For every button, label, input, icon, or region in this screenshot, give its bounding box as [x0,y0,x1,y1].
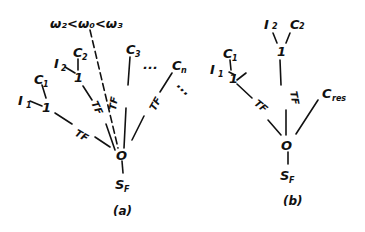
tf-label-c3: TF [107,96,120,112]
label-i1-sub: 1 [26,101,32,110]
root-node-b: O [281,138,292,153]
label-c2-b-sub: 2 [299,22,305,31]
edge-c3-top [128,57,130,85]
edge-a1-tf-top [55,113,72,124]
edge-a1-tf-bottom [95,137,110,147]
label-i2-sub: 2 [61,64,67,73]
edge-cn-top [160,73,172,92]
label-cn-sub: n [181,66,187,75]
root-node-a: O [116,148,127,163]
label-c1-b-sub: 1 [232,54,238,63]
label-i2-b: I [264,17,269,32]
edge-c3-bottom [124,108,126,148]
edge-b1-tf-top [237,84,252,98]
label-c2-sub: 2 [82,53,88,62]
label-sf-a-sub: F [124,185,130,194]
ellipsis-top: ... [143,57,158,72]
edge-omega-dashed [90,30,118,148]
tf-label-b2: TF [288,90,301,106]
label-i2: I [54,56,59,71]
edge-i2-node1-b [273,33,277,43]
label-sf-a: S [115,177,124,192]
label-i1-b-sub: 1 [218,70,224,79]
tf-label-b1: TF [252,97,270,114]
edge-c1-node1-b [230,60,231,70]
label-i2-b-sub: 2 [272,22,278,31]
node-b-top-1: 1 [277,44,286,59]
edge-i1-node1 [30,101,42,106]
tf-label-a1: TF [73,127,90,143]
node-a-left-1: 1 [42,100,51,115]
node-a-mid-1: 1 [74,70,83,85]
diagram-canvas: TF TF TF TF I 1 1 C 1 I 2 1 C 2 ω₂<ω₀<ω₃… [0,0,365,232]
edge-i1-node1-b [237,73,246,80]
ellipsis-right: ... [174,78,195,99]
label-sf-b: S [280,168,289,183]
node-b-left-1: 1 [229,71,238,86]
edge-b1-tf-bottom [268,120,281,135]
label-cres-sub: res [332,94,346,103]
tf-label-a2: TF [89,99,105,116]
edge-c2-node1-b [286,33,290,43]
diagram-a: TF TF TF TF I 1 1 C 1 I 2 1 C 2 ω₂<ω₀<ω₃… [18,16,195,218]
label-cres: C [322,86,332,101]
edge-b2-tf-top [280,60,281,85]
label-i1-b: I [210,62,215,77]
tf-label-cn: TF [147,95,163,112]
caption-b: (b) [283,194,303,208]
label-c3-sub: 3 [135,50,141,59]
diagram-b: TF TF I 1 1 C 1 I 2 C 2 1 C res O S F (b… [210,17,346,208]
label-sf-b-sub: F [289,176,295,185]
label-i1: I [18,93,23,108]
edge-cres [296,100,318,134]
label-omega-ordering: ω₂<ω₀<ω₃ [50,16,123,31]
edge-a2-tf-top [83,86,92,100]
label-c1-sub: 1 [43,80,49,89]
edge-cn-bottom [132,116,144,140]
caption-a: (a) [113,204,132,218]
